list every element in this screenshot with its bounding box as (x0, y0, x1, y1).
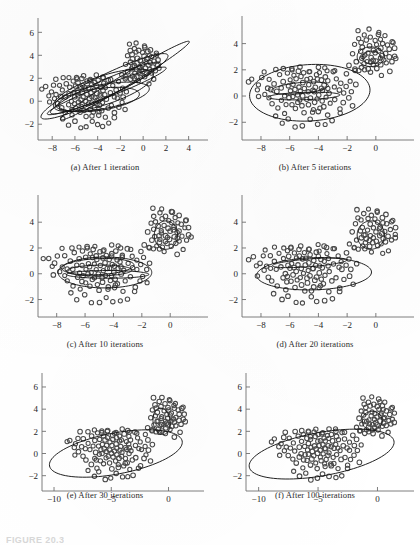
panel-f-plot: −10−50−20246 (210, 355, 420, 530)
svg-text:2: 2 (234, 243, 239, 253)
panel-d-plot: −8−6−4−20−2024 (210, 175, 420, 355)
svg-text:2: 2 (30, 243, 35, 253)
panel-e: −10−50−20246 (e) After 30 iterations (0, 355, 210, 530)
svg-text:2: 2 (30, 73, 35, 83)
svg-text:0: 0 (30, 269, 35, 279)
svg-text:−8: −8 (256, 320, 266, 330)
svg-text:−4: −4 (93, 143, 103, 153)
svg-text:4: 4 (30, 217, 35, 227)
panel-a-caption: (a) After 1 iteration (0, 162, 210, 172)
svg-text:−4: −4 (109, 320, 119, 330)
panel-e-caption: (e) After 30 iterations (0, 490, 210, 500)
panel-d-caption: (d) After 20 iterations (210, 339, 420, 349)
panel-c-caption: (c) After 10 iterations (0, 339, 210, 349)
svg-text:4: 4 (234, 39, 239, 49)
svg-text:4: 4 (234, 217, 239, 227)
panel-c-plot: −8−6−4−20−2024 (0, 175, 210, 355)
figure-grid: −8−6−4−2024−20246 (a) After 1 iteration … (0, 0, 420, 545)
svg-text:−2: −2 (342, 320, 352, 330)
svg-text:4: 4 (186, 143, 191, 153)
svg-text:0: 0 (141, 143, 146, 153)
svg-text:0: 0 (168, 320, 173, 330)
figure-number-fragment: FIGURE 20.3 (6, 535, 64, 544)
svg-text:−6: −6 (285, 143, 295, 153)
svg-text:−4: −4 (314, 320, 324, 330)
svg-text:−2: −2 (24, 119, 34, 129)
svg-text:−8: −8 (52, 320, 62, 330)
panel-b-plot: −8−6−4−20−2024 (210, 0, 420, 175)
panel-f: −10−50−20246 (f) After 100 iterations (210, 355, 420, 530)
svg-text:2: 2 (234, 65, 239, 75)
panel-f-caption: (f) After 100 iterations (210, 490, 420, 500)
svg-text:2: 2 (238, 427, 243, 437)
panel-d: −8−6−4−20−2024 (d) After 20 iterations (210, 175, 420, 355)
svg-text:−8: −8 (47, 143, 57, 153)
svg-text:0: 0 (30, 96, 35, 106)
svg-text:6: 6 (34, 382, 39, 392)
svg-text:0: 0 (374, 320, 379, 330)
svg-text:0: 0 (234, 91, 239, 101)
svg-text:−2: −2 (137, 320, 147, 330)
svg-text:−2: −2 (232, 471, 242, 481)
svg-text:−2: −2 (28, 471, 38, 481)
svg-text:−8: −8 (256, 143, 266, 153)
svg-text:0: 0 (374, 143, 379, 153)
svg-text:2: 2 (164, 143, 169, 153)
svg-text:4: 4 (30, 51, 35, 61)
svg-text:−2: −2 (342, 143, 352, 153)
panel-b-caption: (b) After 5 iterations (210, 162, 420, 172)
svg-text:−6: −6 (285, 320, 295, 330)
svg-text:−6: −6 (70, 143, 80, 153)
svg-text:−4: −4 (314, 143, 324, 153)
svg-text:4: 4 (238, 404, 243, 414)
svg-text:−2: −2 (228, 295, 238, 305)
svg-text:0: 0 (238, 449, 243, 459)
svg-text:−6: −6 (80, 320, 90, 330)
svg-text:−2: −2 (228, 117, 238, 127)
panel-b: −8−6−4−20−2024 (b) After 5 iterations (210, 0, 420, 175)
svg-text:−2: −2 (24, 295, 34, 305)
svg-text:6: 6 (238, 382, 243, 392)
svg-text:−2: −2 (116, 143, 126, 153)
svg-text:0: 0 (34, 449, 39, 459)
svg-text:0: 0 (234, 269, 239, 279)
svg-text:6: 6 (30, 28, 35, 38)
svg-text:2: 2 (34, 427, 39, 437)
panel-a-plot: −8−6−4−2024−20246 (0, 0, 210, 175)
panel-e-plot: −10−50−20246 (0, 355, 210, 530)
panel-a: −8−6−4−2024−20246 (a) After 1 iteration (0, 0, 210, 175)
panel-c: −8−6−4−20−2024 (c) After 10 iterations (0, 175, 210, 355)
svg-text:4: 4 (34, 404, 39, 414)
